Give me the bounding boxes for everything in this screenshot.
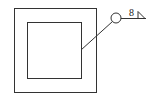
weld-drawing: 8 — [0, 0, 153, 97]
all-around-circle-icon — [111, 13, 121, 23]
weld-size-label: 8 — [129, 7, 134, 18]
inner-square — [28, 23, 82, 79]
outer-square — [15, 9, 97, 93]
fillet-weld-triangle-icon — [138, 12, 145, 19]
